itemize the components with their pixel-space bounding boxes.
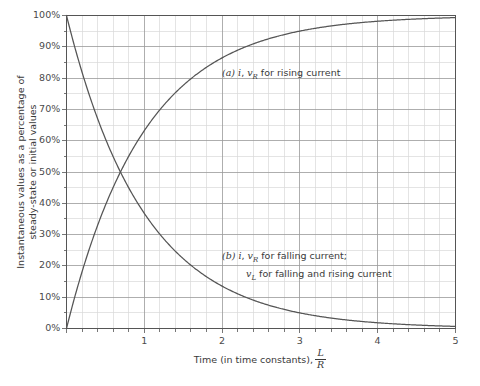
x-tick-label-5: 5: [441, 335, 471, 346]
fraction-denominator: R: [315, 360, 326, 370]
annotation-b-text: for falling current;: [258, 250, 347, 261]
x-axis-title-fraction: LR: [315, 348, 326, 370]
y-axis-title-line2: steady-state or initial values: [27, 57, 39, 287]
annotation-falling-current: (b)i, vR for falling current; vL for fal…: [222, 249, 392, 285]
fraction-numerator: L: [315, 348, 326, 358]
y-tick-label-90pct: 90%: [15, 40, 61, 51]
x-tick-label-1: 1: [129, 335, 159, 346]
x-tick-label-4: 4: [363, 335, 393, 346]
annotation-a-marker: (a): [222, 67, 235, 78]
chart-plot-svg: [0, 0, 480, 386]
y-tick-label-0pct: 0%: [15, 322, 61, 333]
x-tick-label-3: 3: [285, 335, 315, 346]
x-axis-title-text: Time (in time constants),: [194, 354, 313, 365]
y-axis-title-line1: Instantaneous values as a percentage of: [15, 57, 27, 287]
chart-figure: 0%10%20%30%40%50%60%70%80%90%100% 12345 …: [0, 0, 480, 386]
y-axis-title: Instantaneous values as a percentage of …: [15, 57, 39, 287]
annotation-a-line1: (a)i, vR for rising current: [222, 66, 340, 84]
y-tick-label-100pct: 100%: [15, 9, 61, 20]
annotation-b-line2: vL for falling and rising current: [222, 267, 392, 285]
x-tick-label-2: 2: [207, 335, 237, 346]
annotation-b-line1: (b)i, vR for falling current;: [222, 249, 392, 267]
annotation-rising-current: (a)i, vR for rising current: [222, 66, 340, 84]
y-tick-label-10pct: 10%: [15, 291, 61, 302]
annotation-b-marker: (b): [222, 250, 236, 261]
x-axis-title: Time (in time constants),LR: [150, 349, 370, 371]
annotation-a-text: for rising current: [258, 67, 341, 78]
annotation-b-line2-text: for falling and rising current: [256, 268, 392, 279]
